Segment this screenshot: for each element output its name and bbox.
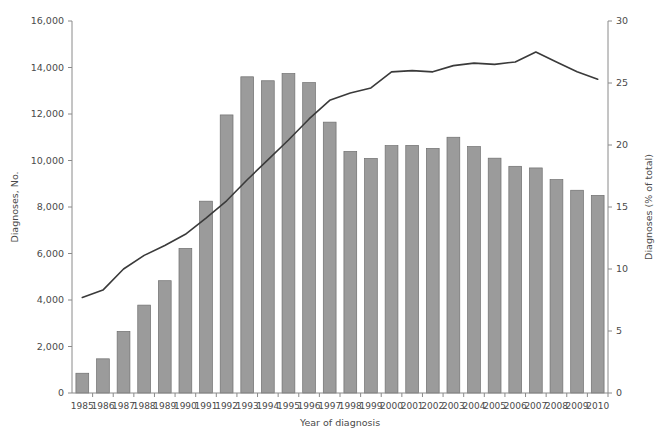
x-axis-tick-label-1995: 1995: [277, 401, 300, 411]
y-axis-right-tick-label: 30: [616, 15, 628, 26]
bar-2006: [509, 166, 522, 393]
x-axis-tick-label-2003: 2003: [442, 401, 465, 411]
y-axis-right-tick-label: 25: [616, 77, 628, 88]
x-axis-tick-label-2007: 2007: [524, 401, 547, 411]
bar-1996: [303, 83, 316, 393]
x-axis-tick-label-1993: 1993: [236, 401, 259, 411]
x-axis-tick-label-1992: 1992: [215, 401, 238, 411]
bar-1998: [344, 151, 357, 393]
x-axis-tick-label-1987: 1987: [112, 401, 135, 411]
chart-canvas: 02,0004,0006,0008,00010,00012,00014,0001…: [0, 0, 669, 433]
bar-1988: [138, 305, 151, 393]
x-axis-tick-label-2010: 2010: [586, 401, 609, 411]
y-axis-left-tick-label: 14,000: [31, 62, 64, 73]
bar-2004: [468, 147, 481, 393]
bar-1993: [241, 77, 254, 393]
bar-1994: [261, 81, 274, 393]
bar-2009: [571, 190, 584, 393]
bar-1987: [117, 331, 130, 393]
bar-1985: [76, 373, 89, 393]
bar-1995: [282, 74, 295, 393]
bar-2003: [447, 137, 460, 393]
bar-1992: [220, 115, 233, 393]
bar-1986: [97, 359, 110, 393]
bar-2005: [488, 158, 501, 393]
y-axis-right-tick-label: 0: [616, 387, 622, 398]
y-axis-left-tick-label: 2,000: [37, 341, 64, 352]
y-axis-left-tick-label: 6,000: [37, 248, 64, 259]
x-axis-tick-label-1985: 1985: [71, 401, 94, 411]
bar-2001: [406, 145, 419, 393]
y-axis-right-tick-label: 20: [616, 139, 628, 150]
y-axis-left-tick-label: 12,000: [31, 108, 64, 119]
bar-2010: [591, 195, 604, 393]
bar-1989: [158, 281, 171, 393]
bar-1991: [200, 201, 213, 393]
y-axis-left-tick-label: 16,000: [31, 15, 64, 26]
y-axis-left-tick-label: 0: [58, 387, 64, 398]
bar-1997: [323, 122, 336, 393]
bar-2000: [385, 146, 398, 393]
y-axis-left-tick-label: 4,000: [37, 294, 64, 305]
y-axis-right-tick-label: 15: [616, 201, 628, 212]
bar-2002: [426, 148, 439, 393]
x-axis-tick-label-2005: 2005: [483, 401, 506, 411]
x-axis-tick-label-2002: 2002: [421, 401, 444, 411]
chart-container: 02,0004,0006,0008,00010,00012,00014,0001…: [0, 0, 669, 433]
bar-2008: [550, 180, 563, 393]
x-axis-tick-label-1991: 1991: [195, 401, 218, 411]
y-axis-left-title: Diagnoses, No.: [9, 171, 20, 242]
bar-1990: [179, 248, 192, 393]
y-axis-left-tick-label: 10,000: [31, 155, 64, 166]
y-axis-left-tick-label: 8,000: [37, 201, 64, 212]
y-axis-right-title: Diagnoses (% of total): [643, 154, 654, 260]
bar-1999: [365, 158, 378, 393]
x-axis-tick-label-2001: 2001: [401, 401, 424, 411]
x-axis-title: Year of diagnosis: [299, 417, 380, 428]
bar-2007: [529, 168, 542, 393]
x-axis-tick-label-1997: 1997: [318, 401, 341, 411]
y-axis-right-tick-label: 10: [616, 263, 628, 274]
y-axis-right-tick-label: 5: [616, 325, 622, 336]
